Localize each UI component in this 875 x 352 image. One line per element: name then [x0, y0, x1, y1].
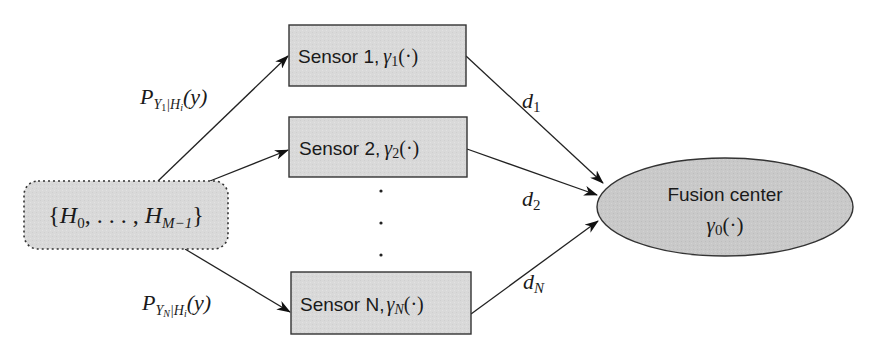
edge-label-p-y1-given-h: PY1|Hi(y) [139, 84, 207, 113]
edge-label-d1: d1 [522, 88, 541, 115]
fusion-center-node: Fusion center γ0(·) [597, 158, 853, 256]
distributed-detection-diagram: {H0, . . . , HM−1} Sensor 1,γ1(·) Sensor… [0, 0, 875, 352]
edge-label-dn: dN [523, 269, 545, 296]
edge-label-d2: d2 [522, 186, 541, 213]
hypothesis-set-node: {H0, . . . , HM−1} [24, 181, 228, 249]
edge-source-to-sensor-2 [210, 150, 288, 181]
more-sensors-ellipsis [379, 189, 382, 256]
sensor-2-label: Sensor 2,γ2(·) [299, 137, 419, 161]
edge-sensor-n-to-fusion [471, 221, 598, 314]
sensor-2-node: Sensor 2,γ2(·) [289, 117, 467, 177]
sensor-1-label: Sensor 1,γ1(·) [298, 45, 418, 69]
sensor-n-label: Sensor N,γN(·) [300, 293, 424, 317]
edge-source-to-sensor-1 [158, 56, 288, 181]
sensor-1-node: Sensor 1,γ1(·) [289, 25, 466, 86]
fusion-center-label: Fusion center [667, 184, 783, 205]
edge-label-p-yn-given-h: PYN|Hi(y) [141, 290, 211, 319]
sensor-n-node: Sensor N,γN(·) [291, 272, 471, 334]
fusion-center-function: γ0(·) [707, 213, 744, 238]
edge-sensor-1-to-fusion [466, 56, 603, 183]
